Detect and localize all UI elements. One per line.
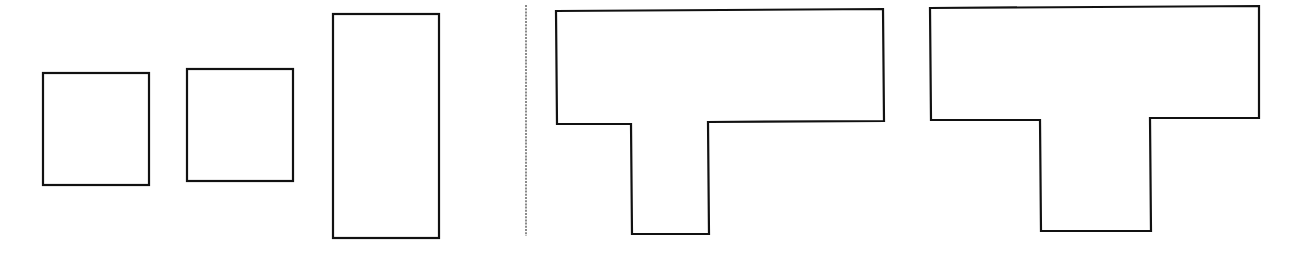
right-shape-group (556, 6, 1259, 234)
left-shape-group (43, 14, 439, 238)
tall-rectangle (333, 14, 439, 238)
t-shape-1 (556, 9, 884, 234)
square-1 (43, 73, 149, 185)
diagram-canvas (0, 0, 1293, 264)
square-2 (187, 69, 293, 181)
t-shape-2 (930, 6, 1259, 231)
